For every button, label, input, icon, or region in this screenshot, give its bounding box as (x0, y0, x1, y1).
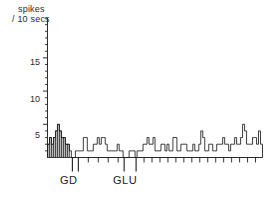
histogram-trace (48, 124, 263, 157)
axes-group (43, 18, 263, 158)
event-markers-group (72, 158, 255, 172)
shaded-bars-group (48, 124, 70, 157)
plot-canvas (0, 0, 269, 198)
spike-rate-histogram-figure: spikes / 10 secs 15 10 5 GD GLU (0, 0, 269, 198)
